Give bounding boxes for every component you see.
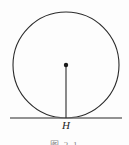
center-point-dot [64, 63, 68, 67]
geometry-figure: H 图 2-1 [0, 0, 129, 145]
figure-drawing: H [0, 0, 129, 145]
figure-caption: 图 2-1 [0, 140, 129, 145]
point-label-h: H [61, 119, 71, 131]
